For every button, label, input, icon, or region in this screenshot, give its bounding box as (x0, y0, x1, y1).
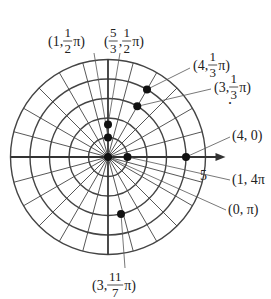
point-p-4-third-pi (143, 85, 151, 93)
leader-p-1-4pi (128, 157, 231, 180)
polar-grid-svg: 5 (1, 12 π)(53, 12π)(4, 13π)(3, 13π)(4, … (0, 0, 271, 299)
label-p-0-pi: (0, π) (228, 202, 259, 218)
period-mark: . (228, 90, 232, 107)
point-p-4-0 (182, 153, 190, 161)
grid-ray (108, 88, 177, 157)
label-p-1-half-pi: (1, 12 π) (48, 25, 85, 56)
label-text: (3, (92, 278, 107, 294)
label-text: (4, (193, 58, 208, 74)
label-text: ( (104, 34, 109, 50)
point-p-1-half-pi (104, 134, 112, 142)
label-text: (3, (214, 80, 229, 96)
point-p-5-3-half-pi (104, 120, 112, 128)
label-text: π) (239, 80, 251, 96)
label-p-3-third-pi: (3, 13π) (214, 71, 251, 102)
point-p-1-4pi (124, 153, 132, 161)
label-p-3-11-7-pi: (3, 117 π) (92, 269, 136, 299)
fraction-numerator: 1 (230, 71, 237, 86)
fraction-numerator: 1 (209, 49, 216, 64)
fraction-denominator: 2 (64, 41, 71, 56)
fraction-denominator: 2 (123, 41, 130, 56)
leader-p-5-3-half-pi (108, 53, 120, 124)
point-p-3-11-7-pi (117, 210, 125, 218)
grid-ray (39, 157, 108, 226)
fraction-numerator: 1 (64, 25, 71, 40)
label-text: π) (124, 278, 136, 294)
axis-tick-label: 5 (200, 168, 207, 183)
arrow-head-icon (216, 153, 226, 161)
point-labels: (1, 12 π)(53, 12π)(4, 13π)(3, 13π)(4, 0)… (48, 25, 265, 299)
fraction-numerator: 5 (110, 25, 117, 40)
label-text: π) (132, 34, 144, 50)
point-p-3-third-pi (133, 102, 141, 110)
label-p-4-third-pi: (4, 13π) (193, 49, 230, 80)
fraction-denominator: 7 (112, 285, 119, 299)
label-text: (0, π) (228, 202, 259, 218)
label-text: (1, (48, 34, 63, 50)
grid-ray (39, 88, 108, 157)
fraction-numerator: 11 (109, 269, 122, 284)
point-p-0-pi (104, 153, 112, 161)
label-text: π) (218, 58, 230, 74)
fraction-numerator: 1 (123, 25, 130, 40)
label-p-1-4pi: (1, 4π (232, 172, 265, 188)
label-text: (4, 0) (232, 128, 263, 144)
label-text: (1, 4π (232, 172, 265, 188)
axes: 5 (11, 60, 226, 255)
polar-diagram: 5 (1, 12 π)(53, 12π)(4, 13π)(3, 13π)(4, … (0, 0, 271, 299)
fraction-denominator: 3 (209, 65, 216, 80)
label-text: , (119, 34, 123, 49)
label-p-5-3-half-pi: (53, 12π) (104, 25, 144, 56)
label-text: π) (73, 34, 85, 50)
leader-p-0-pi (108, 157, 226, 210)
label-p-4-0: (4, 0) (232, 128, 263, 144)
leader-p-3-11-7-pi (121, 214, 125, 268)
leader-p-4-0 (186, 137, 230, 157)
fraction-denominator: 3 (110, 41, 117, 56)
